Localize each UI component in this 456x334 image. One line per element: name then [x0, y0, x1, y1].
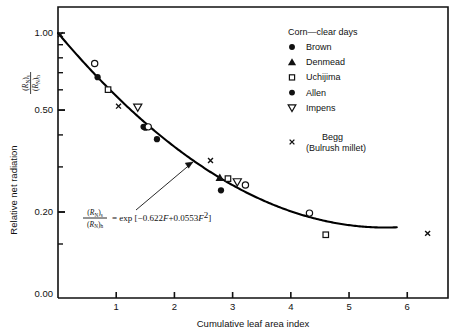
legend-label-denmead: Denmead	[306, 57, 345, 67]
legend-label-allen: Allen	[306, 88, 326, 98]
legend-marker-allen	[289, 90, 295, 96]
y-tick-label: 0.20	[35, 206, 54, 217]
data-point-uchijima	[323, 232, 329, 238]
x-axis-title: Cumulative leaf area index	[197, 318, 310, 329]
legend-marker-uchijima	[289, 75, 294, 80]
legend-label-brown: Brown	[306, 42, 332, 52]
x-tick-label: 6	[405, 301, 410, 312]
x-tick-label: 2	[172, 301, 177, 312]
data-point-open-circle-unlabeled	[306, 210, 312, 216]
data-point-open-circle-unlabeled	[145, 124, 151, 130]
legend-label-begg-sub: (Bulrush millet)	[306, 143, 366, 153]
data-point-brown	[94, 74, 100, 80]
data-point-open-circle-unlabeled	[242, 182, 248, 188]
x-tick-label: 1	[114, 301, 119, 312]
y-tick-label: 0.50	[35, 104, 54, 115]
legend-marker-brown	[289, 44, 295, 50]
y-axis-title: Relative net radiation	[8, 145, 19, 234]
data-point-brown	[218, 187, 224, 193]
legend-label-uchijima: Uchijima	[306, 72, 341, 82]
data-point-open-circle-unlabeled	[92, 60, 98, 66]
x-tick-label: 3	[230, 301, 235, 312]
chart-background	[0, 0, 456, 334]
legend-title: Corn—clear days	[288, 27, 358, 37]
y-tick-label-zero: 0.00	[35, 288, 54, 299]
scatter-chart: 1.000.500.200.00 123456 Cumulative leaf …	[0, 0, 456, 334]
data-point-uchijima	[225, 176, 231, 182]
data-point-uchijima	[105, 87, 111, 93]
data-point-brown	[154, 136, 160, 142]
x-tick-label: 5	[346, 301, 351, 312]
x-tick-label: 4	[288, 301, 293, 312]
chart-figure: 1.000.500.200.00 123456 Cumulative leaf …	[0, 0, 456, 334]
legend-label-begg: Begg	[322, 132, 343, 142]
legend-label-impens: Impens	[306, 103, 336, 113]
y-tick-label: 1.00	[35, 27, 54, 38]
